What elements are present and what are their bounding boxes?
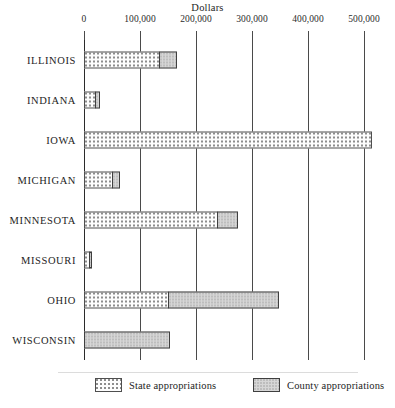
bar-segment-state (84, 212, 218, 229)
bar-segment-county (168, 292, 279, 309)
bar-segment-state (84, 52, 160, 69)
category-label: MINNESOTA (10, 215, 76, 226)
category-label: IOWA (46, 135, 76, 146)
legend-label-county: County appropriations (287, 380, 384, 391)
stacked-bar (84, 292, 279, 309)
stacked-bar (84, 52, 177, 69)
chart-legend: State appropriations County appropriatio… (0, 372, 395, 402)
x-axis-title-text: Dollars (191, 2, 223, 13)
x-axis-tick (140, 31, 141, 40)
legend-divider (58, 372, 358, 373)
category-label: OHIO (47, 295, 76, 306)
stacked-bar (84, 252, 92, 269)
x-axis-tick-label: 400,000 (292, 14, 324, 24)
x-axis-tick-label: 300,000 (236, 14, 268, 24)
bar-segment-county (95, 92, 100, 109)
legend-item-county: County appropriations (253, 378, 384, 392)
x-axis-tick (252, 31, 253, 40)
bar-chart: Dollars 0100,000200,000300,000400,000500… (0, 0, 395, 408)
chart-row: IOWA (84, 120, 372, 160)
x-axis-title: Dollars (0, 2, 395, 13)
legend-item-state: State appropriations (95, 378, 216, 392)
category-label: WISCONSIN (12, 335, 76, 346)
chart-row: MISSOURI (84, 240, 372, 280)
bar-segment-county (112, 172, 120, 189)
x-axis-tick-label: 200,000 (180, 14, 212, 24)
chart-row: WISCONSIN (84, 320, 372, 360)
category-label: ILLINOIS (27, 55, 76, 66)
stacked-bar (84, 212, 238, 229)
plot-area: 0100,000200,000300,000400,000500,000ILLI… (84, 40, 372, 360)
x-axis-tick (308, 31, 309, 40)
bar-segment-county (217, 212, 238, 229)
x-axis-tick-label: 0 (82, 14, 87, 24)
bar-segment-state (84, 132, 372, 149)
x-axis-tick-label: 500,000 (348, 14, 380, 24)
chart-row: MICHIGAN (84, 160, 372, 200)
stacked-bar (84, 332, 170, 349)
bar-segment-state (84, 172, 113, 189)
chart-row: OHIO (84, 280, 372, 320)
bar-segment-state (84, 292, 169, 309)
legend-swatch-county (253, 378, 280, 392)
category-label: MISSOURI (21, 255, 76, 266)
category-label: INDIANA (27, 95, 76, 106)
category-label: MICHIGAN (18, 175, 76, 186)
legend-label-state: State appropriations (129, 380, 216, 391)
bar-segment-county (84, 332, 170, 349)
x-axis-tick (196, 31, 197, 40)
bar-segment-county (159, 52, 177, 69)
x-axis-tick (84, 31, 85, 40)
stacked-bar (84, 172, 120, 189)
x-axis-tick (364, 31, 365, 40)
legend-swatch-state (95, 378, 122, 392)
chart-row: INDIANA (84, 80, 372, 120)
stacked-bar (84, 92, 100, 109)
bar-segment-county (89, 252, 92, 269)
stacked-bar (84, 132, 372, 149)
chart-row: MINNESOTA (84, 200, 372, 240)
chart-row: ILLINOIS (84, 40, 372, 80)
x-axis-tick-label: 100,000 (124, 14, 156, 24)
